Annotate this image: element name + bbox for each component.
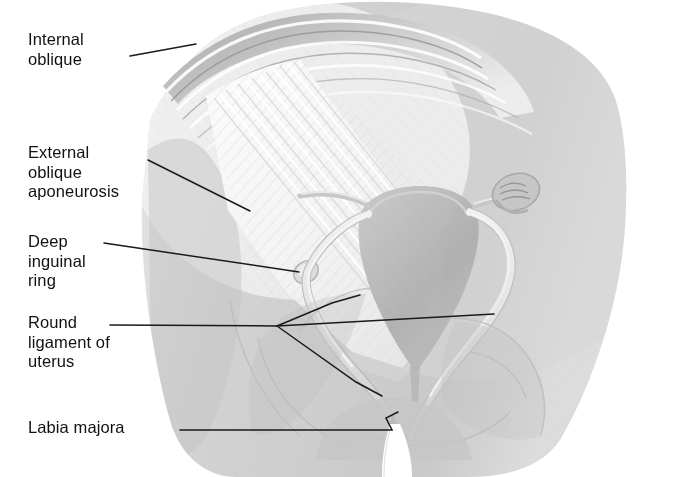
label-round-ligament-of-uterus: Round ligament of uterus bbox=[28, 313, 110, 372]
label-deep-inguinal-ring: Deep inguinal ring bbox=[28, 232, 86, 291]
anatomical-illustration bbox=[0, 0, 679, 477]
leader-round-ligament-stem bbox=[110, 325, 277, 326]
label-internal-oblique: Internal oblique bbox=[28, 30, 84, 69]
label-external-oblique-aponeurosis: External oblique aponeurosis bbox=[28, 143, 119, 202]
leader-internal-oblique bbox=[130, 44, 196, 56]
label-labia-majora: Labia majora bbox=[28, 418, 125, 438]
anatomy-figure: Internal oblique External oblique aponeu… bbox=[0, 0, 679, 477]
